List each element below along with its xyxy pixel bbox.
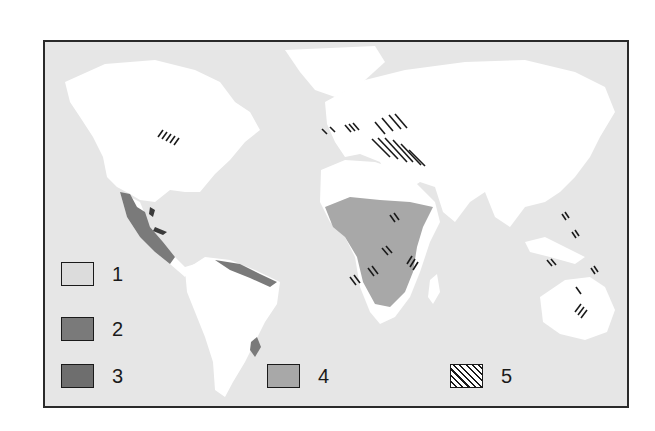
legend-item-1: 1 [61, 262, 123, 286]
legend-item-4: 4 [267, 364, 329, 388]
legend-label: 2 [112, 317, 123, 341]
legend-label: 5 [501, 364, 512, 388]
madagascar [428, 274, 440, 304]
legend-item-3: 3 [61, 364, 123, 388]
legend-swatch-medium-gray [267, 364, 300, 388]
legend-item-2: 2 [61, 317, 123, 341]
legend-swatch-hatch [450, 364, 483, 388]
southeast-asia-islands [525, 237, 585, 264]
region-category-2-central-america [120, 192, 175, 264]
legend-label: 1 [112, 262, 123, 286]
world-map [45, 42, 627, 406]
legend-item-5: 5 [450, 364, 512, 388]
legend-label: 4 [318, 364, 329, 388]
map-frame: 1 2 3 4 5 [43, 40, 629, 408]
legend-label: 3 [112, 364, 123, 388]
legend-swatch-dark-gray [61, 317, 94, 341]
legend-swatch-darker-gray [61, 364, 94, 388]
legend-swatch-light-gray [61, 262, 94, 286]
